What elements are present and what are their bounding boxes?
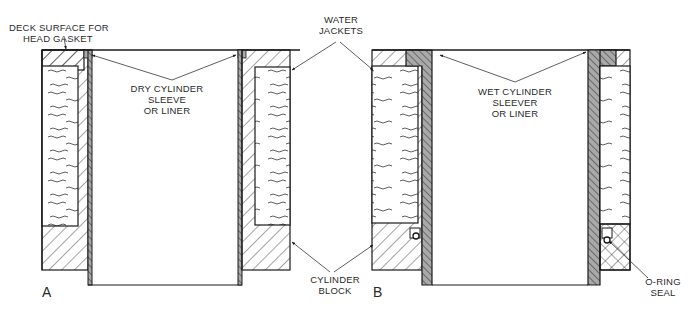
panel-a-right-block: [242, 50, 290, 270]
label-dry-sleeve: DRY CYLINDER SLEEVE OR LINER: [127, 83, 207, 116]
o-ring-right: [604, 237, 610, 243]
cylinder-sleeve-diagram: [0, 0, 691, 310]
o-ring-left: [413, 233, 419, 239]
panel-letter-b: B: [373, 284, 382, 300]
label-o-ring-seal: O-RING SEAL: [640, 276, 686, 298]
label-cylinder-block: CYLINDER BLOCK: [300, 274, 370, 296]
dry-sleeve-left: [88, 50, 92, 285]
dry-sleeve-right: [238, 50, 242, 285]
panel-a-left-block: [42, 50, 88, 270]
leader-lines: [64, 38, 648, 278]
label-wet-sleeve: WET CYLINDER SLEEVER OR LINER: [475, 86, 555, 119]
label-water-jackets: WATER JACKETS: [306, 14, 376, 36]
panel-letter-a: A: [42, 284, 51, 300]
label-deck-surface: DECK SURFACE FOR HEAD GASKET: [9, 22, 109, 44]
